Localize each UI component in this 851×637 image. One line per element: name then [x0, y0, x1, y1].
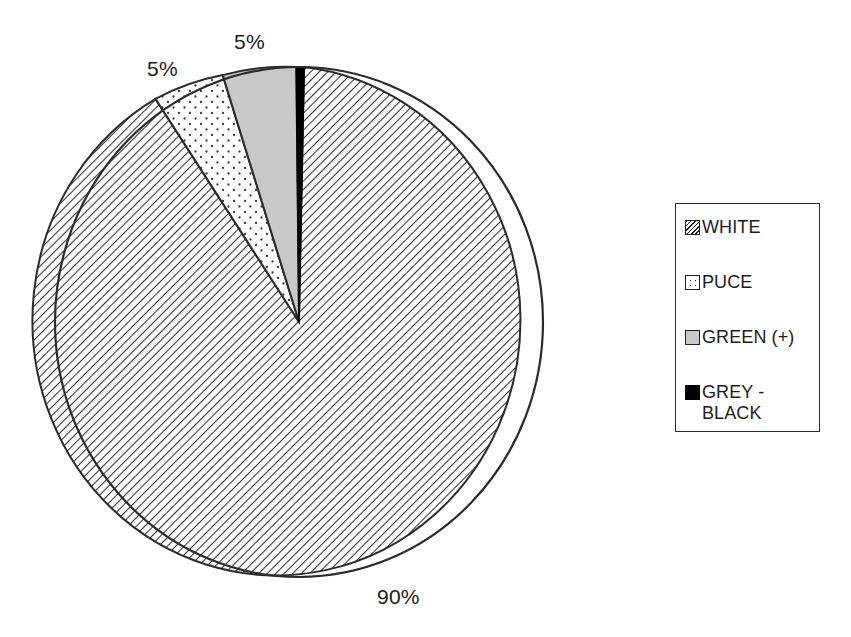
- hatch-swatch-icon: [685, 220, 700, 235]
- legend-item-puce[interactable]: PUCE: [685, 272, 752, 293]
- legend-label-green: GREEN (+): [702, 327, 794, 348]
- pie-label-grey-black: 5%: [234, 30, 265, 54]
- pie-chart-figure: 5% 5% 90% WHITE PUCE GREEN (+) GREY - BL…: [0, 0, 851, 637]
- pie-label-puce: 5%: [147, 57, 178, 81]
- legend-label-puce: PUCE: [702, 272, 752, 293]
- legend-label-white: WHITE: [702, 217, 761, 238]
- chart-legend: WHITE PUCE GREEN (+) GREY - BLACK: [675, 203, 820, 432]
- legend-label-grey-black: GREY - BLACK: [702, 382, 764, 424]
- legend-item-grey-black[interactable]: GREY - BLACK: [685, 382, 764, 424]
- legend-item-white[interactable]: WHITE: [685, 217, 761, 238]
- pie-label-white: 90%: [377, 585, 420, 609]
- legend-list: WHITE PUCE GREEN (+) GREY - BLACK: [676, 204, 819, 431]
- gray-swatch-icon: [685, 330, 700, 345]
- dotted-swatch-icon: [685, 275, 700, 290]
- legend-item-green[interactable]: GREEN (+): [685, 327, 794, 348]
- black-swatch-icon: [685, 385, 700, 400]
